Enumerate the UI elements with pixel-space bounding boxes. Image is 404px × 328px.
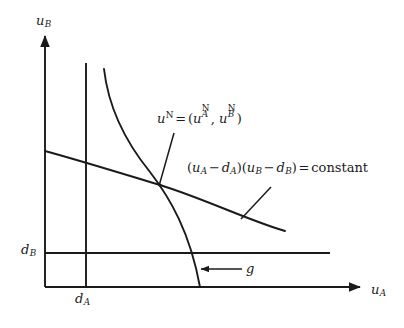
tick-label-db: dB [21,243,36,256]
tick-label-da-sub: A [83,297,90,307]
tick-label-da: dA [75,292,90,305]
leader-line-nash-product [241,187,271,219]
tick-label-db-sub: B [29,248,36,258]
x-axis-label-sub: A [379,288,386,298]
frontier-label-g: g [246,262,254,275]
nash-solution-label: uN=(uNA, uNB) [157,110,242,125]
nash-product-label: (uA−dA)(uB−dB)=constant [187,161,368,174]
y-axis-label-sub: B [44,19,51,29]
frontier-label-g-base: g [246,261,254,276]
y-axis-label: uB [36,14,51,27]
curve-bargaining-frontier-g [104,69,200,287]
x-axis-label: uA [371,283,386,296]
nash-bargaining-diagram: uB uA dB dA g uN=(uNA, uNB) (uA−dA)(uB−d… [0,0,404,328]
leader-line-nash-solution [159,133,174,186]
